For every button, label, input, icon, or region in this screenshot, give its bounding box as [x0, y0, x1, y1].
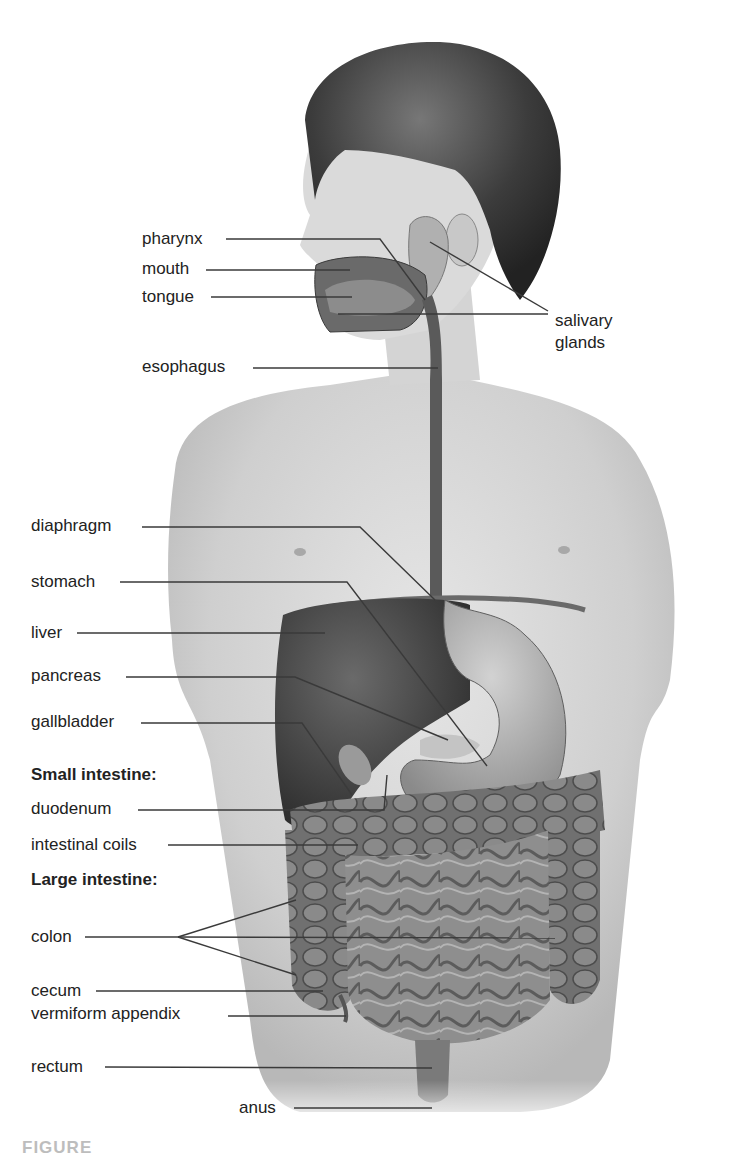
label-gallbladder: gallbladder	[31, 712, 114, 732]
ascending-colon	[285, 830, 350, 1011]
descending-colon	[545, 780, 600, 1004]
label-pancreas: pancreas	[31, 666, 101, 686]
label-pharynx: pharynx	[142, 229, 202, 249]
label-rectum: rectum	[31, 1057, 83, 1077]
label-tongue: tongue	[142, 287, 194, 307]
label-colon: colon	[31, 927, 72, 947]
label-diaphragm: diaphragm	[31, 516, 111, 536]
label-esophagus: esophagus	[142, 357, 225, 377]
figure-caption-clipped: FIGURE	[22, 1138, 92, 1157]
label-salivary-glands-2: glands	[555, 333, 605, 353]
nipple-right	[558, 546, 570, 554]
nipple-left	[294, 548, 306, 556]
heading-large-intestine: Large intestine:	[31, 870, 158, 890]
colon-leader-right	[178, 937, 555, 938]
label-vermiform-appendix: vermiform appendix	[31, 1004, 180, 1024]
heading-small-intestine: Small intestine:	[31, 765, 157, 785]
label-intestinal-coils: intestinal coils	[31, 835, 137, 855]
label-stomach: stomach	[31, 572, 95, 592]
label-duodenum: duodenum	[31, 799, 111, 819]
small-intestine-coils	[345, 830, 550, 1044]
label-mouth: mouth	[142, 259, 189, 279]
label-salivary-glands-1: salivary	[555, 311, 613, 331]
label-anus: anus	[239, 1098, 276, 1118]
ear	[446, 214, 478, 266]
label-cecum: cecum	[31, 981, 81, 1001]
label-liver: liver	[31, 623, 62, 643]
